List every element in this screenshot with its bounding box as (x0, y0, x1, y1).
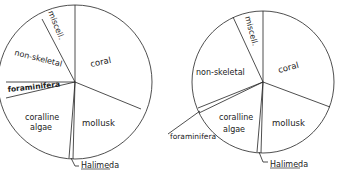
label-mollusk-left: mollusk (82, 118, 115, 128)
pie-left-labels: miscell. non-skeletal coral foraminifera… (7, 9, 119, 170)
halimeda-leader-right (259, 152, 268, 162)
label-foraminifera-right: foraminifera (170, 132, 216, 141)
label-algae-left: algae (30, 123, 52, 132)
label-nonskeletal-left: non-skeletal (14, 48, 63, 69)
label-miscell-right: miscell. (243, 15, 260, 47)
label-coral-left: coral (89, 55, 112, 69)
label-miscell-left: miscell. (46, 9, 66, 41)
divider-foram-nonskeletal-r (198, 82, 263, 108)
label-coralline-right: coralline (219, 113, 253, 122)
label-halimeda-right: Halimeda (270, 160, 308, 169)
divider-coral-mollusk-r (263, 82, 330, 107)
diagram-canvas: miscell. non-skeletal coral foraminifera… (0, 0, 337, 175)
label-mollusk-right: mollusk (272, 118, 305, 128)
foraminifera-leader-right (168, 111, 200, 134)
pie-right-labels: miscell. non-skeletal coral foraminifera… (170, 15, 308, 169)
label-coralline-left: coralline (25, 113, 59, 122)
label-coral-right: coral (277, 60, 300, 75)
divider-coral-mollusk (75, 82, 141, 109)
divider-coralline-foram-r (199, 82, 263, 113)
label-algae-right: algae (223, 125, 245, 134)
label-halimeda-left: Halimeda (81, 161, 119, 170)
label-nonskeletal-right: non-skeletal (196, 68, 245, 77)
